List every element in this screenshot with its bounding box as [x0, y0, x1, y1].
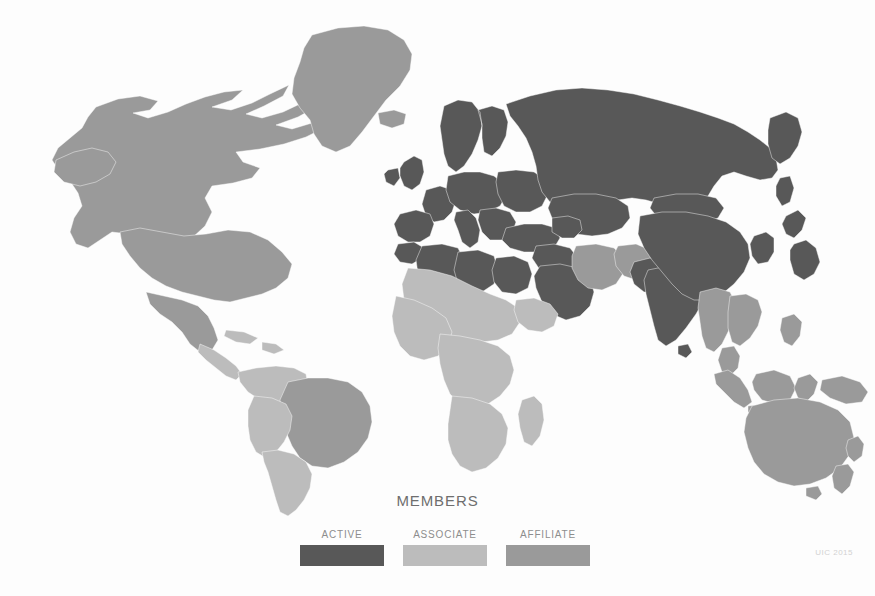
region-madagascar [518, 396, 544, 446]
map-canvas [0, 0, 875, 520]
legend-swatch-affiliate [506, 545, 590, 566]
legend-title: MEMBERS [0, 492, 875, 509]
source-credit: UIC 2015 [815, 548, 853, 557]
legend-swatch-active [300, 545, 384, 566]
region-central-east-africa [438, 334, 514, 408]
region-central-america [198, 344, 242, 380]
region-usa-main [120, 228, 292, 302]
cropped-caption-strip [0, 583, 875, 596]
region-korea [750, 232, 774, 264]
region-caucasus [552, 216, 582, 238]
region-iceland [378, 110, 406, 128]
legend-label-active: ACTIVE [290, 528, 394, 541]
legend-item-active[interactable]: ACTIVE [290, 528, 394, 566]
region-southern-africa [448, 396, 508, 472]
region-sakhalin [776, 176, 794, 206]
region-egypt [492, 256, 532, 294]
legend-label-associate: ASSOCIATE [393, 528, 497, 541]
region-philippines [780, 314, 802, 346]
region-kamchatka [768, 112, 802, 164]
region-peru-bolivia [248, 396, 292, 458]
world-map-figure: MEMBERS ACTIVE ASSOCIATE AFFILIATE UIC 2… [0, 0, 875, 596]
legend-item-affiliate[interactable]: AFFILIATE [496, 528, 600, 566]
legend-swatch-associate [403, 545, 487, 566]
region-italy [454, 210, 480, 248]
region-mexico [146, 292, 218, 352]
region-uk-ireland [384, 156, 424, 190]
region-japan [782, 210, 820, 280]
region-scandinavia [440, 100, 508, 172]
region-cuba [224, 330, 258, 344]
region-papua-new-guinea [820, 376, 868, 404]
region-sri-lanka [678, 344, 692, 358]
region-iberia [394, 210, 434, 242]
world-map-svg [0, 0, 875, 520]
region-russia [506, 88, 778, 210]
region-sulawesi [794, 374, 818, 402]
map-legend: MEMBERS ACTIVE ASSOCIATE AFFILIATE [0, 492, 875, 578]
legend-item-associate[interactable]: ASSOCIATE [393, 528, 497, 566]
legend-label-affiliate: AFFILIATE [496, 528, 600, 541]
region-hispaniola [262, 342, 284, 354]
region-indochina [728, 294, 762, 346]
region-sumatra [714, 370, 752, 408]
